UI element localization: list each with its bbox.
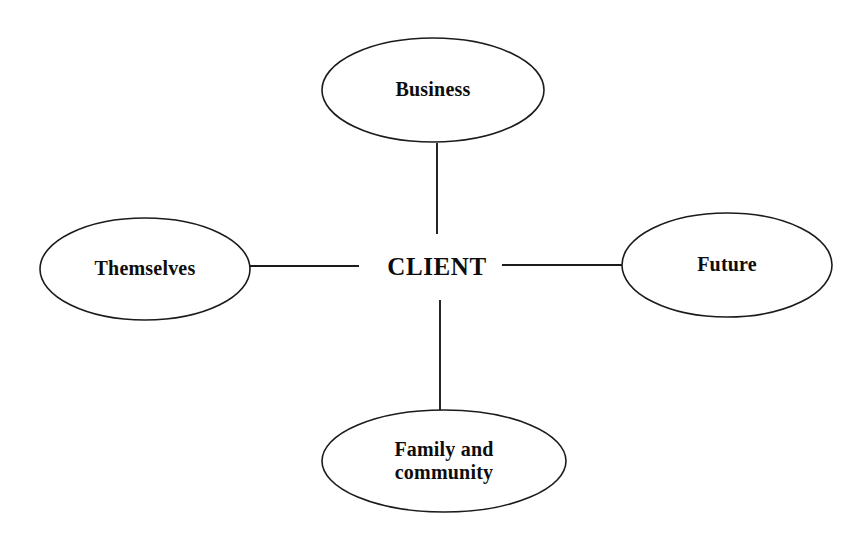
node-shape-themselves[interactable] xyxy=(40,218,250,320)
node-shape-family-and-community[interactable] xyxy=(322,410,566,512)
concept-map-svg xyxy=(0,0,866,533)
diagram-canvas: Business Themselves Future Family and co… xyxy=(0,0,866,533)
node-shape-future[interactable] xyxy=(622,213,832,317)
node-shape-business[interactable] xyxy=(322,38,544,142)
